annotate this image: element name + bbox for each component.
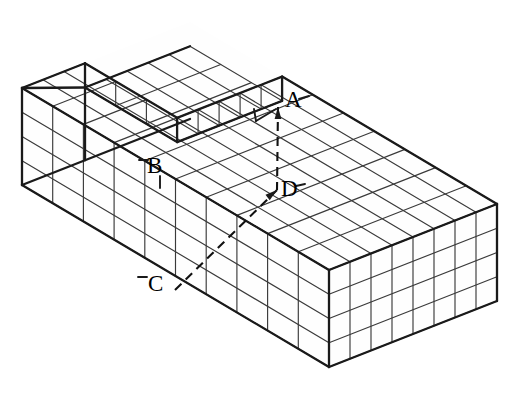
point-label-d: D [281,177,298,200]
isometric-block-diagram [0,0,513,404]
point-label-b: B [147,154,162,177]
figure-canvas: A B C D [0,0,513,404]
point-label-c: C [148,272,163,295]
point-label-a: A [285,88,302,111]
